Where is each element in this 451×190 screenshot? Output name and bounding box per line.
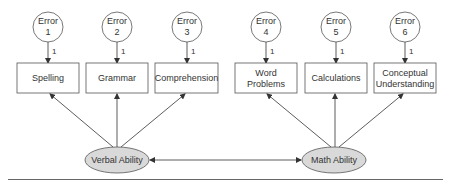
loading-3: 1 bbox=[191, 47, 196, 56]
error-6: Error 6 bbox=[390, 12, 420, 42]
observed-grammar: Grammar bbox=[86, 63, 148, 93]
sem-path-diagram: Error 1 Error 2 Error 3 Error 4 Error 5 … bbox=[0, 0, 451, 190]
observed-conceptual-line2: Understanding bbox=[376, 79, 435, 89]
error-4-number: 4 bbox=[263, 27, 268, 37]
observed-grammar-label: Grammar bbox=[98, 73, 136, 83]
error-arrows: 1 1 1 1 1 1 bbox=[48, 42, 414, 63]
latent-verbal-ability: Verbal Ability bbox=[85, 147, 149, 173]
loading-4: 1 bbox=[270, 47, 275, 56]
error-6-number: 6 bbox=[402, 27, 407, 37]
observed-spelling: Spelling bbox=[17, 63, 79, 93]
observed-spelling-label: Spelling bbox=[32, 73, 64, 83]
error-2-number: 2 bbox=[114, 27, 119, 37]
observed-conceptual-line1: Conceptual bbox=[382, 68, 428, 78]
verbal-loading-arrows bbox=[50, 94, 185, 147]
latent-verbal-ability-label: Verbal Ability bbox=[91, 155, 143, 165]
error-3-number: 3 bbox=[184, 27, 189, 37]
observed-calculations-label: Calculations bbox=[311, 73, 361, 83]
loading-1: 1 bbox=[52, 47, 57, 56]
observed-word-problems: Word Problems bbox=[235, 63, 297, 93]
error-1-number: 1 bbox=[45, 27, 50, 37]
error-2-label: Error bbox=[107, 16, 127, 26]
observed-conceptual-understanding: Conceptual Understanding bbox=[374, 63, 436, 93]
observed-word-problems-line2: Problems bbox=[247, 79, 286, 89]
error-1: Error 1 bbox=[33, 12, 63, 42]
latent-math-ability-label: Math Ability bbox=[311, 155, 358, 165]
error-4-label: Error bbox=[256, 16, 276, 26]
error-4: Error 4 bbox=[251, 12, 281, 42]
error-1-label: Error bbox=[38, 16, 58, 26]
loading-2: 1 bbox=[121, 47, 126, 56]
error-3: Error 3 bbox=[172, 12, 202, 42]
error-5: Error 5 bbox=[321, 12, 351, 42]
math-loading-arrows bbox=[267, 94, 403, 147]
error-3-label: Error bbox=[177, 16, 197, 26]
latent-math-ability: Math Ability bbox=[302, 147, 366, 173]
error-5-label: Error bbox=[326, 16, 346, 26]
observed-comprehension-label: Comprehension bbox=[155, 73, 219, 83]
loading-5: 1 bbox=[340, 47, 345, 56]
observed-word-problems-line1: Word bbox=[255, 68, 276, 78]
error-6-label: Error bbox=[395, 16, 415, 26]
observed-calculations: Calculations bbox=[305, 63, 367, 93]
loading-6: 1 bbox=[409, 47, 414, 56]
error-2: Error 2 bbox=[102, 12, 132, 42]
observed-comprehension: Comprehension bbox=[155, 63, 219, 93]
error-5-number: 5 bbox=[333, 27, 338, 37]
